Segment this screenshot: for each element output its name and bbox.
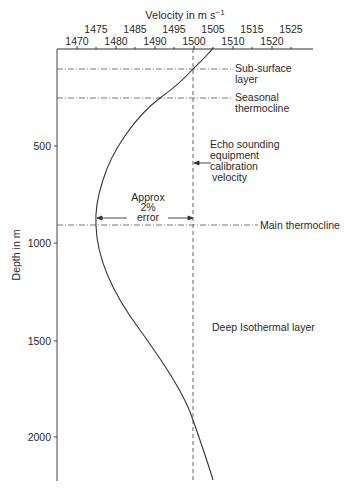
svg-text:1000: 1000 xyxy=(28,237,52,249)
svg-text:1505: 1505 xyxy=(201,23,225,35)
x-axis-title: Velocity in m s−1 xyxy=(145,8,225,21)
svg-text:1500: 1500 xyxy=(182,35,206,47)
svg-text:500: 500 xyxy=(33,140,51,152)
svg-text:1515: 1515 xyxy=(240,23,264,35)
calibration-arrow xyxy=(194,161,211,165)
svg-text:1525: 1525 xyxy=(279,23,303,35)
x-tick-labels-lower: 1470 1480 1490 1500 1510 1520 xyxy=(65,35,284,47)
sound-velocity-chart: Velocity in m s−1 1475 1485 1495 1505 15… xyxy=(0,0,355,498)
y-axis-title: Depth in m xyxy=(10,229,22,280)
svg-text:1495: 1495 xyxy=(162,23,186,35)
svg-text:1480: 1480 xyxy=(104,35,128,47)
echo-label-4: velocity xyxy=(212,171,248,183)
svg-text:1490: 1490 xyxy=(143,35,167,47)
svg-text:1475: 1475 xyxy=(84,23,108,35)
sub-surface-label-2: layer xyxy=(235,73,258,85)
seasonal-label-2: thermocline xyxy=(235,102,289,114)
svg-text:1500: 1500 xyxy=(28,335,52,347)
svg-text:1510: 1510 xyxy=(221,35,245,47)
svg-text:1520: 1520 xyxy=(260,35,284,47)
velocity-profile-curve xyxy=(96,48,213,480)
svg-text:1470: 1470 xyxy=(65,35,89,47)
x-tick-labels-upper: 1475 1485 1495 1505 1515 1525 xyxy=(84,23,303,35)
svg-text:2000: 2000 xyxy=(28,431,52,443)
deep-layer-label: Deep Isothermal layer xyxy=(212,321,315,333)
main-thermocline-label: Main thermocline xyxy=(260,219,340,231)
svg-text:1485: 1485 xyxy=(123,23,147,35)
error-label-3: error xyxy=(137,211,160,223)
y-tick-labels: 500 1000 1500 2000 xyxy=(28,140,52,443)
